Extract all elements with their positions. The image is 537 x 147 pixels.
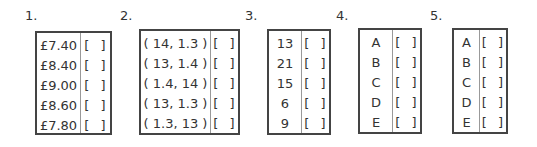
question-number: 3. <box>245 8 257 23</box>
checkbox-column: [ ] [ ] [ ] [ ] [ ] <box>393 30 420 132</box>
option-value: 21 <box>277 54 294 74</box>
option-value: C <box>462 73 471 93</box>
checkbox-column: [ ] [ ] [ ] [ ] [ ] <box>81 33 110 133</box>
option-value: 13 <box>277 34 294 54</box>
checkbox-column: [ ] [ ] [ ] [ ] [ ] <box>211 31 238 133</box>
option-value: C <box>371 73 380 93</box>
answer-checkbox[interactable]: [ ] <box>84 116 106 136</box>
answer-checkbox[interactable]: [ ] <box>213 54 235 74</box>
answer-checkbox[interactable]: [ ] <box>482 53 504 73</box>
option-value: 6 <box>281 94 289 114</box>
options-column: £7.40 £8.40 £9.00 £8.60 £7.80 <box>37 33 81 133</box>
answer-checkbox[interactable]: [ ] <box>213 114 235 134</box>
option-value: D <box>461 93 471 113</box>
option-value: ( 13, 1.4 ) <box>144 54 208 74</box>
answer-checkbox[interactable]: [ ] <box>84 56 106 76</box>
answer-box-2: ( 14, 1.3 ) ( 13, 1.4 ) ( 1.4, 14 ) ( 13… <box>139 29 240 135</box>
answer-checkbox[interactable]: [ ] <box>395 93 417 113</box>
answer-checkbox[interactable]: [ ] <box>84 96 106 116</box>
option-value: ( 1.4, 14 ) <box>144 74 208 94</box>
answer-box-3: 13 21 15 6 9 [ ] [ ] [ ] [ ] [ ] <box>267 29 331 135</box>
answer-checkbox[interactable]: [ ] <box>395 113 417 133</box>
answer-box-1: £7.40 £8.40 £9.00 £8.60 £7.80 [ ] [ ] [ … <box>35 31 112 135</box>
question-number: 4. <box>336 8 348 23</box>
answer-checkbox[interactable]: [ ] <box>84 76 106 96</box>
answer-checkbox[interactable]: [ ] <box>304 74 326 94</box>
option-value: 9 <box>281 114 289 134</box>
option-value: A <box>372 33 381 53</box>
option-value: £7.80 <box>40 116 77 136</box>
option-value: ( 13, 1.3 ) <box>144 94 208 114</box>
option-value: £8.60 <box>40 96 77 116</box>
answer-checkbox[interactable]: [ ] <box>304 54 326 74</box>
answer-checkbox[interactable]: [ ] <box>304 94 326 114</box>
option-value: B <box>372 53 381 73</box>
options-column: A B C D E <box>454 30 480 132</box>
option-value: A <box>462 33 471 53</box>
answer-checkbox[interactable]: [ ] <box>482 73 504 93</box>
answer-checkbox[interactable]: [ ] <box>482 33 504 53</box>
options-column: 13 21 15 6 9 <box>269 31 302 133</box>
option-value: ( 1.3, 13 ) <box>144 114 208 134</box>
option-value: £9.00 <box>40 76 77 96</box>
option-value: B <box>462 53 471 73</box>
option-value: ( 14, 1.3 ) <box>144 34 208 54</box>
answer-checkbox[interactable]: [ ] <box>482 113 504 133</box>
answer-checkbox[interactable]: [ ] <box>84 36 106 56</box>
answer-checkbox[interactable]: [ ] <box>304 34 326 54</box>
option-value: E <box>372 113 380 133</box>
answer-checkbox[interactable]: [ ] <box>213 34 235 54</box>
answer-checkbox[interactable]: [ ] <box>213 94 235 114</box>
option-value: 15 <box>277 74 294 94</box>
options-column: A B C D E <box>360 30 393 132</box>
answer-checkbox[interactable]: [ ] <box>304 114 326 134</box>
checkbox-column: [ ] [ ] [ ] [ ] [ ] <box>302 31 329 133</box>
options-column: ( 14, 1.3 ) ( 13, 1.4 ) ( 1.4, 14 ) ( 13… <box>141 31 211 133</box>
question-number: 1. <box>25 8 37 23</box>
answer-checkbox[interactable]: [ ] <box>395 33 417 53</box>
option-value: E <box>462 113 470 133</box>
question-number: 5. <box>430 8 442 23</box>
checkbox-column: [ ] [ ] [ ] [ ] [ ] <box>480 30 506 132</box>
answer-checkbox[interactable]: [ ] <box>395 53 417 73</box>
answer-checkbox[interactable]: [ ] <box>213 74 235 94</box>
answer-box-4: A B C D E [ ] [ ] [ ] [ ] [ ] <box>358 28 422 134</box>
option-value: £8.40 <box>40 56 77 76</box>
answer-checkbox[interactable]: [ ] <box>395 73 417 93</box>
option-value: £7.40 <box>40 36 77 56</box>
answer-box-5: A B C D E [ ] [ ] [ ] [ ] [ ] <box>452 28 508 134</box>
question-number: 2. <box>120 8 132 23</box>
answer-checkbox[interactable]: [ ] <box>482 93 504 113</box>
option-value: D <box>371 93 381 113</box>
